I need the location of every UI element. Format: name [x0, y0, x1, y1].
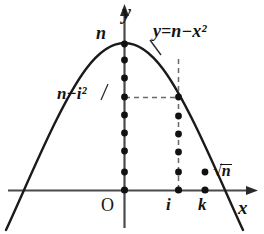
sqrt-overbar	[220, 164, 232, 165]
curve-equation-label: y=n−x²	[153, 22, 207, 40]
x-tick-label-k: k	[198, 196, 207, 213]
vertex-value-label: n	[96, 24, 106, 42]
x-axis-label: x	[238, 198, 248, 217]
origin-label: O	[101, 196, 114, 214]
lattice-dot-axis	[201, 186, 208, 193]
lattice-dot-origin	[121, 186, 128, 193]
lattice-dot	[175, 94, 182, 101]
lattice-dot	[121, 112, 128, 119]
lattice-dot	[121, 130, 128, 137]
height-at-i-label: n−i²	[57, 85, 87, 102]
lattice-dot	[121, 94, 128, 101]
equation-leader-line	[150, 40, 161, 55]
lattice-dot	[121, 41, 128, 48]
lattice-dot	[175, 169, 182, 176]
lattice-dot	[202, 169, 209, 176]
lattice-dot	[175, 149, 182, 156]
height-label-leader-line	[101, 84, 108, 100]
dot-column-at-k	[201, 169, 208, 194]
y-axis-label: y	[122, 2, 131, 22]
x-tick-label-i: i	[166, 196, 171, 213]
lattice-dot	[121, 169, 128, 176]
x-axis-arrowhead	[246, 186, 258, 195]
lattice-dot-axis	[175, 186, 182, 193]
lattice-dot	[175, 131, 182, 138]
lattice-dot	[121, 75, 128, 82]
parabola-figure: y x n y=n−x² n−i² O i k √n	[0, 0, 264, 234]
sqrt-symbol: √n	[212, 163, 231, 179]
root-label: √n	[212, 163, 231, 179]
lattice-dot	[121, 57, 128, 64]
x-axis	[8, 186, 258, 195]
lattice-dot	[175, 113, 182, 120]
figure-canvas	[0, 0, 264, 234]
lattice-dot	[121, 148, 128, 155]
